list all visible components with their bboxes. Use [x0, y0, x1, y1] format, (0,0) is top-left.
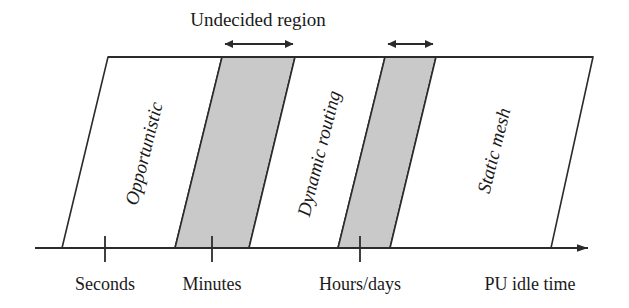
diagram-canvas: Undecided region Opportunistic Dynamic r…	[0, 0, 629, 308]
axis-tick-label-group: Seconds Minutes Hours/days PU idle time	[75, 274, 576, 294]
undecided-region-title: Undecided region	[190, 9, 326, 30]
diagram-root: Undecided region Opportunistic Dynamic r…	[0, 0, 629, 308]
axis-label-minutes: Minutes	[182, 274, 241, 294]
axis-label-seconds: Seconds	[75, 274, 135, 294]
axis-label-pu-idle-time: PU idle time	[485, 274, 576, 294]
axis-label-hours-days: Hours/days	[319, 274, 401, 294]
